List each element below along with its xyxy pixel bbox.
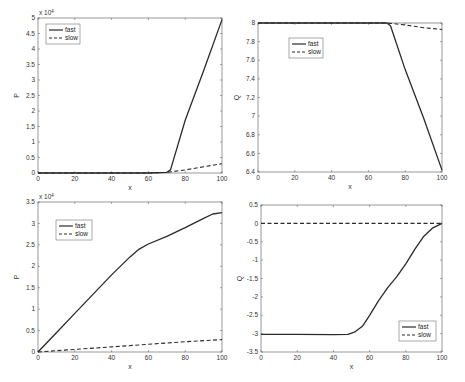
y-tick-label: 6.6 — [246, 150, 255, 157]
y-tick-label: 1.5 — [26, 284, 35, 291]
y-tick-label: 1 — [31, 138, 35, 145]
x-tick-label: 20 — [294, 354, 302, 361]
legend-label-fast: fast — [65, 26, 76, 33]
x-tick-label: 80 — [402, 354, 410, 361]
y-tick-label: 1 — [31, 305, 35, 312]
legend: fastslow — [289, 38, 323, 58]
y-tick-label: 0.5 — [26, 327, 35, 334]
x-tick-label: 20 — [71, 175, 79, 182]
legend: fastslow — [56, 220, 92, 240]
y-tick-label: 0 — [31, 169, 35, 176]
legend-label-fast: fast — [308, 40, 319, 47]
x-tick-label: 100 — [217, 175, 228, 182]
y-tick-label: -0.5 — [247, 238, 259, 245]
y-tick-label: 4.5 — [26, 30, 35, 37]
y-multiplier-label: x 104 — [39, 9, 54, 17]
axes-box — [258, 23, 442, 172]
x-axis-label: x — [128, 184, 132, 191]
x-tick-label: 80 — [402, 174, 410, 181]
y-tick-label: 0.5 — [249, 201, 258, 208]
x-axis-label: x — [350, 363, 354, 370]
y-tick-label: -1 — [252, 256, 258, 263]
x-tick-label: 0 — [256, 174, 260, 181]
x-axis-label: x — [348, 183, 352, 190]
legend: fastslow — [46, 24, 80, 44]
subplot-top-left: 02040608010000.511.522.533.544.55x 104xP… — [13, 9, 228, 192]
subplot-top-right: 0204060801006.46.66.877.27.47.67.88xQfas… — [233, 19, 448, 190]
x-tick-label: 80 — [182, 175, 190, 182]
x-tick-label: 100 — [437, 174, 448, 181]
y-tick-label: 7.6 — [246, 56, 255, 63]
legend-label-fast: fast — [75, 222, 86, 229]
y-tick-label: 0.5 — [26, 154, 35, 161]
x-tick-label: 20 — [71, 354, 79, 361]
x-tick-label: 100 — [217, 354, 228, 361]
y-tick-label: 7 — [251, 112, 255, 119]
y-tick-label: -1.5 — [247, 275, 259, 282]
x-tick-label: 0 — [36, 354, 40, 361]
y-tick-label: 2 — [31, 262, 35, 269]
y-tick-label: -3.5 — [247, 348, 259, 355]
y-tick-label: 0 — [31, 348, 35, 355]
y-tick-label: 5 — [31, 14, 35, 21]
y-tick-label: 4 — [31, 45, 35, 52]
y-axis-label: Q — [233, 94, 241, 100]
legend-label-slow: slow — [418, 331, 431, 338]
y-tick-label: 1.5 — [26, 123, 35, 130]
y-tick-label: 2.5 — [26, 241, 35, 248]
legend-label-slow: slow — [308, 48, 321, 55]
y-tick-label: 6.8 — [246, 131, 255, 138]
y-tick-label: 3 — [31, 220, 35, 227]
y-tick-label: 0 — [254, 220, 258, 227]
y-tick-label: 3.5 — [26, 198, 35, 205]
y-tick-label: 2.5 — [26, 92, 35, 99]
y-tick-label: 8 — [251, 19, 255, 26]
y-axis-label: Q — [236, 275, 244, 281]
x-tick-label: 60 — [145, 354, 153, 361]
y-tick-label: 3.5 — [26, 61, 35, 68]
y-tick-label: 3 — [31, 76, 35, 83]
y-tick-label: 7.2 — [246, 94, 255, 101]
y-axis-label: P — [13, 93, 20, 98]
x-tick-label: 60 — [365, 174, 373, 181]
x-tick-label: 40 — [108, 175, 116, 182]
x-tick-label: 40 — [328, 174, 336, 181]
x-tick-label: 20 — [291, 174, 299, 181]
legend-label-slow: slow — [75, 230, 88, 237]
legend-label-slow: slow — [65, 34, 78, 41]
figure-canvas: 02040608010000.511.522.533.544.55x 104xP… — [0, 0, 465, 382]
subplot-bottom-left: 02040608010000.511.522.533.5x 104xPfasts… — [13, 193, 228, 371]
x-tick-label: 40 — [330, 354, 338, 361]
y-tick-label: -2 — [252, 293, 258, 300]
subplot-bottom-right: 020406080100-3.5-3-2.5-2-1.5-1-0.500.5xQ… — [236, 201, 448, 370]
y-tick-label: 6.4 — [246, 168, 255, 175]
x-tick-label: 80 — [182, 354, 190, 361]
x-axis-label: x — [128, 363, 132, 370]
y-tick-label: -3 — [252, 330, 258, 337]
legend: fastslow — [399, 321, 436, 341]
y-tick-label: 2 — [31, 107, 35, 114]
y-tick-label: -2.5 — [247, 311, 259, 318]
y-axis-label: P — [13, 274, 20, 279]
x-tick-label: 60 — [366, 354, 374, 361]
x-tick-label: 60 — [145, 175, 153, 182]
x-tick-label: 40 — [108, 354, 116, 361]
x-tick-label: 0 — [259, 354, 263, 361]
x-tick-label: 100 — [437, 354, 448, 361]
y-tick-label: 7.8 — [246, 38, 255, 45]
legend-label-fast: fast — [418, 323, 429, 330]
x-tick-label: 0 — [36, 175, 40, 182]
y-multiplier-label: x 104 — [39, 193, 54, 201]
y-tick-label: 7.4 — [246, 75, 255, 82]
